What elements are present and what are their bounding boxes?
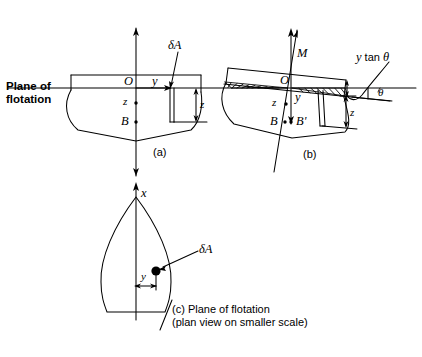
- plane-of-flotation-label-line2: flotation: [6, 93, 51, 106]
- panel-a-hull-section: [67, 75, 202, 141]
- panel-c-x-axis: [133, 182, 139, 320]
- panel-b-caption: (b): [303, 148, 316, 161]
- panel-a-origin-label: O: [124, 74, 133, 88]
- panel-a-area-strip: [170, 88, 174, 122]
- panel-c-caption-rule: [160, 300, 172, 330]
- panel-b-buoyancy-label: B: [270, 114, 278, 128]
- panel-b-buoyancy-shifted-label: B': [296, 114, 306, 128]
- panel-c-y-dimension-label: y: [141, 270, 146, 283]
- panel-b-z-point: [284, 102, 287, 105]
- panel-b-b-point: [283, 120, 286, 123]
- panel-b-b-shifted-point: [289, 120, 292, 123]
- panel-a-b-point: [134, 120, 137, 123]
- ytantheta-theta: θ: [383, 50, 389, 64]
- panel-b-theta-angle: [352, 88, 392, 101]
- panel-a-z-point: [134, 101, 137, 104]
- panel-a-area-leader: [169, 52, 178, 89]
- panel-c-caption-line1: (c) Plane of flotation: [172, 303, 270, 316]
- panel-c-caption-line2: (plan view on smaller scale): [172, 316, 308, 329]
- panel-b-z-label: z: [272, 96, 276, 109]
- panel-a-y-axis-label: y: [152, 74, 158, 88]
- panel-c-area-leader: [158, 251, 198, 271]
- panel-a-buoyancy-label: B: [121, 114, 129, 128]
- panel-b-angle-label: θ: [378, 86, 383, 99]
- panel-b-metacentre-label: M: [297, 46, 307, 60]
- panel-c-area-label: δA: [199, 242, 212, 256]
- panel-b-origin-label: O: [280, 73, 289, 87]
- ytantheta-tan: tan: [362, 51, 383, 63]
- panel-a-caption: (a): [153, 146, 166, 159]
- panel-a-z-dimension-label: z: [200, 98, 204, 111]
- panel-b-area-strip: [318, 90, 325, 126]
- panel-b-z-dimension-label: z: [350, 106, 354, 119]
- panel-b-y-axis-label: y: [295, 90, 301, 104]
- panel-a-z-label: z: [123, 95, 127, 108]
- panel-a-area-label: δA: [168, 38, 181, 52]
- panel-c-area-point: [151, 266, 160, 275]
- panel-b-ytantheta-label: y tan θ: [356, 50, 389, 64]
- plane-of-flotation-label-line1: Plane of: [6, 80, 51, 93]
- figure-container: Plane of flotation O y z B δA z (a) M O …: [0, 0, 422, 357]
- panel-c-x-axis-label: x: [141, 186, 147, 200]
